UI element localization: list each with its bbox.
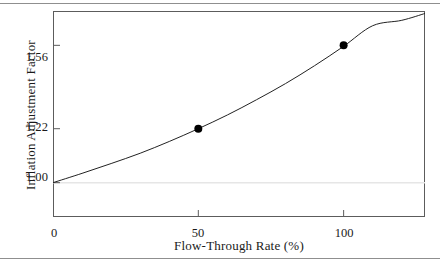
page-rule-bottom xyxy=(0,258,440,259)
x-axis-label: Flow-Through Rate (%) xyxy=(53,238,425,254)
chart-figure: 1.56 1.22 1.00 0 50 100 Flow-Through Rat… xyxy=(0,5,440,255)
y-axis-label: Inflation Adjustment Factor xyxy=(23,20,39,210)
plot-canvas xyxy=(53,11,425,217)
figure-page: 1.56 1.22 1.00 0 50 100 Flow-Through Rat… xyxy=(0,0,440,268)
data-curve-line xyxy=(53,13,425,182)
page-rule-top xyxy=(0,3,440,4)
data-point-marker-group xyxy=(194,41,347,132)
